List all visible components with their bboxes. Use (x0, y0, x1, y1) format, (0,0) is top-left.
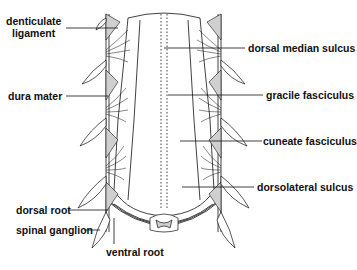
label-spinal-ganglion: spinal ganglion (16, 224, 93, 236)
ganglion-right-1 (221, 60, 245, 84)
label-line-2: ligament (6, 27, 61, 39)
label-dorsolateral-sulcus: dorsolateral sulcus (257, 181, 353, 193)
label-dura-mater: dura mater (8, 90, 62, 102)
label-denticulate-ligament: denticulate ligament (6, 15, 61, 39)
spinal-cord-diagram: denticulate ligament dura mater dorsal r… (0, 0, 357, 270)
label-dorsal-median-sulcus: dorsal median sulcus (248, 42, 355, 54)
label-gracile-fasciculus: gracile fasciculus (266, 89, 354, 101)
label-ventral-root: ventral root (106, 246, 164, 258)
label-cuneate-fasciculus: cuneate fasciculus (263, 135, 357, 147)
label-line-1: denticulate (6, 15, 61, 27)
label-dorsal-root: dorsal root (16, 204, 71, 216)
ganglion-left-1 (82, 60, 106, 84)
